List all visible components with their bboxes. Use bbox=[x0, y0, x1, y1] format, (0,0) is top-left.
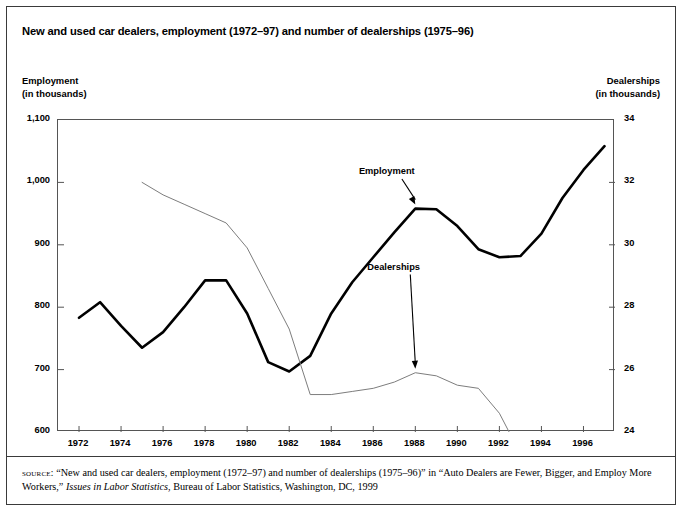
right-axis-caption-line2: (in thousands) bbox=[595, 88, 660, 101]
arrow-head bbox=[412, 361, 418, 369]
x-tick-label: 1990 bbox=[436, 438, 476, 448]
x-tick-label: 1978 bbox=[184, 438, 224, 448]
y-tick-label: 900 bbox=[6, 238, 50, 248]
plot-area bbox=[57, 119, 614, 431]
x-tick-label: 1976 bbox=[142, 438, 182, 448]
y-tick-label: 1,000 bbox=[6, 175, 50, 185]
right-axis-caption-line1: Dealerships bbox=[595, 75, 660, 88]
annotation-arrow-dealerships bbox=[410, 275, 418, 369]
x-tick-label: 1974 bbox=[100, 438, 140, 448]
source-text-part2: , Bureau of Labor Statistics, Washington… bbox=[168, 481, 378, 492]
y-tick-label: 700 bbox=[6, 363, 50, 373]
series-line-dealerships bbox=[142, 182, 583, 432]
left-axis-caption: Employment (in thousands) bbox=[22, 75, 87, 100]
arrow-shaft bbox=[410, 275, 415, 364]
y2-tick-label: 24 bbox=[624, 425, 634, 435]
arrow-head bbox=[409, 196, 415, 205]
x-tick-label: 1992 bbox=[478, 438, 518, 448]
right-axis-caption: Dealerships (in thousands) bbox=[595, 75, 660, 100]
x-tick-label: 1986 bbox=[352, 438, 392, 448]
annotation-arrow-employment bbox=[402, 179, 415, 205]
y2-tick-label: 34 bbox=[624, 113, 634, 123]
x-tick-label: 1982 bbox=[268, 438, 308, 448]
y-tick-label: 800 bbox=[6, 300, 50, 310]
chart-figure: New and used car dealers, employment (19… bbox=[0, 0, 682, 511]
y2-tick-label: 30 bbox=[624, 238, 634, 248]
source-divider bbox=[7, 456, 675, 457]
y2-tick-label: 28 bbox=[624, 300, 634, 310]
x-tick-label: 1988 bbox=[394, 438, 434, 448]
source-text-italic: Issues in Labor Statistics bbox=[66, 481, 168, 492]
x-tick-label: 1996 bbox=[562, 438, 602, 448]
x-tick-label: 1984 bbox=[310, 438, 350, 448]
series-line-employment bbox=[79, 146, 604, 371]
y2-tick-label: 32 bbox=[624, 175, 634, 185]
annotation-label-employment: Employment bbox=[359, 166, 415, 176]
left-axis-caption-line1: Employment bbox=[22, 75, 87, 88]
x-tick-label: 1994 bbox=[520, 438, 560, 448]
source-note: source: “New and used car dealers, emplo… bbox=[22, 466, 652, 494]
page-title: New and used car dealers, employment (19… bbox=[22, 25, 474, 37]
x-tick-label: 1980 bbox=[226, 438, 266, 448]
y-tick-label: 600 bbox=[6, 425, 50, 435]
y2-tick-label: 26 bbox=[624, 363, 634, 373]
x-tick-label: 1972 bbox=[58, 438, 98, 448]
arrow-shaft bbox=[402, 179, 415, 200]
plot-canvas bbox=[58, 120, 615, 432]
y-tick-label: 1,100 bbox=[6, 113, 50, 123]
annotation-label-dealerships: Dealerships bbox=[367, 262, 420, 272]
left-axis-caption-line2: (in thousands) bbox=[22, 88, 87, 101]
source-label: source: bbox=[22, 468, 54, 478]
